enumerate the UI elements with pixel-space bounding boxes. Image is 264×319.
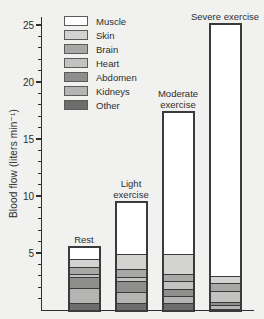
bar-segment-abdomen: [117, 281, 146, 292]
bar-segment-heart: [211, 291, 240, 302]
legend-label-heart: Heart: [96, 58, 119, 69]
bar-label-severe-exercise: Severe exercise: [191, 11, 259, 22]
major-tick-15: [36, 138, 41, 139]
legend-label-abdomen: Abdomen: [96, 72, 137, 83]
bar-segment-brain: [117, 269, 146, 278]
legend-swatch-other: [64, 100, 88, 110]
tick-label-25: 25: [12, 20, 34, 31]
bar-rest: [68, 246, 101, 312]
minor-tick-23: [38, 47, 41, 48]
bar-moderate-exercise: [162, 111, 195, 312]
bar-segment-muscle: [117, 203, 146, 253]
minor-tick-14: [38, 150, 41, 151]
bar-light-exercise: [115, 201, 148, 312]
minor-tick-21: [38, 70, 41, 71]
minor-tick-12: [38, 173, 41, 174]
legend-item-brain: Brain: [64, 42, 137, 56]
major-tick-10: [36, 195, 41, 196]
bar-segment-kidneys: [70, 288, 99, 303]
bar-segment-skin: [117, 254, 146, 269]
legend: MuscleSkinBrainHeartAbdomenKidneysOther: [64, 14, 137, 112]
legend-swatch-brain: [64, 44, 88, 54]
bar-label-line: exercise: [158, 99, 198, 110]
legend-swatch-abdomen: [64, 72, 88, 82]
legend-label-brain: Brain: [96, 44, 118, 55]
major-tick-5: [36, 252, 41, 253]
legend-label-skin: Skin: [96, 30, 114, 41]
minor-tick-18: [38, 104, 41, 105]
minor-tick-16: [38, 127, 41, 128]
bar-segment-heart: [164, 281, 193, 288]
bar-segment-kidneys: [164, 296, 193, 303]
minor-tick-8: [38, 218, 41, 219]
legend-item-muscle: Muscle: [64, 14, 137, 28]
bar-label-rest: Rest: [74, 234, 94, 245]
bar-segment-skin: [211, 276, 240, 283]
minor-tick-6: [38, 241, 41, 242]
bar-segment-skin: [70, 259, 99, 266]
bar-severe-exercise: [209, 23, 242, 312]
legend-swatch-muscle: [64, 16, 88, 26]
legend-label-kidneys: Kidneys: [96, 86, 130, 97]
minor-tick-7: [38, 230, 41, 231]
legend-label-other: Other: [96, 100, 120, 111]
tick-label-5: 5: [12, 248, 34, 259]
bar-segment-other: [164, 303, 193, 310]
minor-tick-4: [38, 264, 41, 265]
minor-tick-3: [38, 275, 41, 276]
minor-tick-2: [38, 287, 41, 288]
bar-label-light-exercise: Lightexercise: [113, 178, 148, 200]
bar-segment-brain: [211, 283, 240, 292]
bar-label-line: Rest: [74, 234, 94, 245]
tick-label-20: 20: [12, 77, 34, 88]
bar-segment-brain: [164, 274, 193, 282]
bar-label-line: Severe exercise: [191, 11, 259, 22]
bar-segment-abdomen: [70, 277, 99, 288]
bar-segment-kidneys: [117, 292, 146, 302]
minor-tick-22: [38, 59, 41, 60]
bar-segment-muscle: [70, 248, 99, 259]
blood-flow-stacked-bar-chart: Blood flow (liters min⁻¹) 510152025 Rest…: [0, 0, 264, 319]
legend-swatch-heart: [64, 58, 88, 68]
bar-label-line: Light: [113, 178, 148, 189]
minor-tick-11: [38, 184, 41, 185]
bar-segment-muscle: [164, 113, 193, 254]
legend-swatch-skin: [64, 30, 88, 40]
bar-segment-muscle: [211, 25, 240, 276]
bar-segment-other: [211, 309, 240, 310]
minor-tick-24: [38, 36, 41, 37]
bar-segment-abdomen: [164, 289, 193, 296]
legend-swatch-kidneys: [64, 86, 88, 96]
legend-item-abdomen: Abdomen: [64, 70, 137, 84]
y-axis-line: [41, 17, 43, 311]
legend-item-kidneys: Kidneys: [64, 84, 137, 98]
minor-tick-13: [38, 161, 41, 162]
legend-item-other: Other: [64, 98, 137, 112]
bar-label-line: Moderate: [158, 88, 198, 99]
major-tick-20: [36, 81, 41, 82]
minor-tick-19: [38, 93, 41, 94]
bar-segment-skin: [164, 254, 193, 273]
minor-tick-1: [38, 298, 41, 299]
tick-label-10: 10: [12, 191, 34, 202]
minor-tick-9: [38, 207, 41, 208]
bar-segment-other: [117, 303, 146, 310]
legend-item-skin: Skin: [64, 28, 137, 42]
bar-label-line: exercise: [113, 189, 148, 200]
major-tick-25: [36, 24, 41, 25]
tick-label-15: 15: [12, 134, 34, 145]
minor-tick-17: [38, 116, 41, 117]
legend-label-muscle: Muscle: [96, 16, 126, 27]
legend-item-heart: Heart: [64, 56, 137, 70]
bar-segment-other: [70, 303, 99, 310]
bar-label-moderate-exercise: Moderateexercise: [158, 88, 198, 110]
bar-segment-brain: [70, 267, 99, 274]
